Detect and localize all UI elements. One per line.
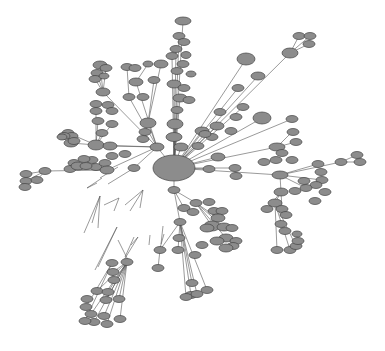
graph-edge: [125, 190, 143, 205]
graph-node: [211, 153, 225, 161]
graph-edge: [87, 183, 97, 188]
graph-node: [154, 247, 166, 254]
graph-edge: [280, 162, 341, 175]
graph-node: [203, 166, 215, 173]
graph-node: [177, 61, 189, 68]
graph-node: [210, 122, 224, 130]
graph-node: [152, 265, 164, 272]
graph-edge: [148, 80, 154, 123]
graph-node: [292, 238, 304, 245]
graph-node: [315, 169, 327, 176]
graph-node: [309, 198, 321, 205]
graph-node: [201, 287, 213, 294]
graph-node: [113, 296, 125, 303]
network-graph: [0, 0, 385, 351]
graph-node: [99, 73, 109, 79]
graph-node: [230, 114, 242, 121]
graph-node: [293, 33, 305, 40]
graph-edge: [148, 64, 161, 123]
graph-node: [237, 104, 249, 111]
graph-node: [106, 108, 118, 115]
graph-node: [96, 88, 110, 96]
graph-node: [304, 33, 316, 40]
graph-node: [178, 39, 190, 46]
graph-node: [199, 131, 211, 138]
graph-node: [96, 130, 108, 137]
graph-node: [180, 294, 192, 301]
graph-canvas: [0, 0, 385, 351]
graph-node: [192, 143, 204, 150]
graph-node: [335, 159, 347, 166]
graph-node: [171, 68, 183, 75]
graph-node: [19, 184, 31, 191]
graph-node: [114, 316, 126, 323]
graph-edge: [180, 222, 186, 297]
graph-node: [196, 242, 208, 249]
graph-node: [251, 72, 265, 80]
graph-node: [286, 116, 298, 123]
graph-node: [172, 247, 184, 254]
graph-node: [80, 304, 92, 311]
graph-node: [57, 134, 67, 140]
graph-node: [128, 165, 140, 172]
graph-node: [167, 119, 183, 129]
graph-node: [150, 143, 164, 151]
graph-edge: [87, 178, 102, 188]
graph-node: [279, 228, 291, 235]
graph-node: [230, 173, 242, 180]
graph-node: [20, 171, 32, 178]
graph-node: [351, 152, 363, 159]
graph-node: [186, 71, 196, 77]
hub-node: [153, 155, 195, 181]
graph-node: [101, 321, 113, 328]
graph-node: [88, 140, 104, 150]
graph-node: [229, 165, 241, 172]
graph-node: [232, 85, 244, 92]
graph-node: [186, 280, 198, 287]
graph-node: [154, 60, 168, 68]
graph-node: [187, 209, 199, 216]
graph-node: [81, 296, 93, 303]
graph-node: [80, 163, 92, 170]
graph-node: [303, 41, 315, 48]
graph-node: [210, 237, 224, 245]
graph-node: [319, 189, 331, 196]
graph-node: [200, 224, 214, 232]
graph-node: [102, 289, 114, 296]
graph-node: [85, 311, 97, 318]
graph-node: [286, 157, 298, 164]
graph-node: [98, 313, 110, 320]
graph-node: [91, 288, 103, 295]
graph-node: [166, 53, 178, 60]
graph-node: [171, 107, 183, 114]
graph-node: [123, 94, 135, 101]
graph-node: [274, 188, 288, 196]
graph-node: [129, 78, 143, 86]
graph-node: [271, 247, 283, 254]
graph-node: [100, 297, 112, 304]
graph-node: [139, 129, 151, 136]
graph-node: [99, 160, 111, 167]
graph-edge: [84, 196, 100, 233]
graph-node: [292, 231, 302, 237]
graph-node: [100, 166, 114, 174]
graph-node: [203, 199, 215, 206]
graph-node: [219, 244, 233, 252]
graph-node: [354, 159, 366, 166]
graph-node: [216, 208, 228, 215]
graph-node: [214, 109, 226, 116]
graph-node: [90, 108, 102, 115]
graph-node: [143, 61, 153, 67]
graph-node: [174, 219, 186, 226]
graph-node: [258, 159, 270, 166]
graph-node: [31, 177, 43, 184]
graph-node: [280, 212, 292, 219]
graph-node: [190, 200, 202, 207]
graph-node: [178, 85, 190, 92]
graph-node: [148, 77, 160, 84]
graph-node: [253, 112, 271, 124]
graph-node: [289, 188, 301, 195]
graph-node: [173, 235, 185, 242]
graph-node: [170, 46, 182, 53]
graph-node: [261, 206, 273, 213]
